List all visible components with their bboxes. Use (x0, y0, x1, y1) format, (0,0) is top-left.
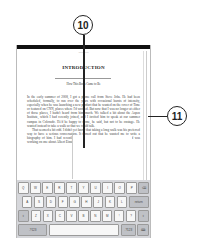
key-b[interactable]: B (78, 210, 88, 222)
numbers-key-right[interactable]: .?123 (121, 224, 136, 236)
key-s[interactable]: S (34, 196, 44, 208)
key-n[interactable]: N (90, 210, 100, 222)
key-h[interactable]: H (81, 196, 91, 208)
key-u[interactable]: U (90, 182, 101, 194)
callout-11: 11 (167, 106, 187, 126)
onscreen-keyboard: Q W E R T Y U I O P ⌫ A S D F G H J K L … (17, 180, 150, 238)
keyboard-icon: ⌨ (141, 228, 145, 232)
keyboard-row-2: A S D F G H J K L return (18, 196, 149, 208)
key-q[interactable]: Q (18, 182, 29, 194)
callout-10-leader-line (83, 35, 85, 148)
key-o[interactable]: O (114, 182, 125, 194)
shift-key-left[interactable]: ⇧ (18, 210, 29, 222)
key-e[interactable]: E (42, 182, 53, 194)
return-key[interactable]: return (129, 196, 149, 208)
numbers-key-left[interactable]: .?123 (18, 224, 47, 236)
key-l[interactable]: L (117, 196, 127, 208)
key-r[interactable]: R (54, 182, 65, 194)
key-y[interactable]: Y (78, 182, 89, 194)
key-i[interactable]: I (102, 182, 113, 194)
key-t[interactable]: T (66, 182, 77, 194)
keyboard-row-4: .?123 .?123 ⌨ (18, 224, 149, 236)
space-bar[interactable] (49, 224, 120, 236)
delete-icon: ⌫ (142, 186, 146, 190)
key-v[interactable]: V (66, 210, 76, 222)
callout-11-leader-line (148, 116, 167, 117)
key-z[interactable]: Z (31, 210, 41, 222)
callout-10: 10 (73, 15, 93, 35)
shift-icon: ⇧ (22, 214, 25, 218)
delete-key[interactable]: ⌫ (138, 182, 149, 194)
key-exclamation[interactable]: ! (114, 210, 124, 222)
key-f[interactable]: F (58, 196, 68, 208)
keyboard-row-3: ⇧ Z X C V B N M ! ? ⇧ (18, 210, 149, 222)
key-j[interactable]: J (93, 196, 103, 208)
keyboard-row-1: Q W E R T Y U I O P ⌫ (18, 182, 149, 194)
hide-keyboard-key[interactable]: ⌨ (137, 224, 149, 236)
shift-key-right[interactable]: ⇧ (138, 210, 149, 222)
shift-icon: ⇧ (142, 214, 145, 218)
key-d[interactable]: D (46, 196, 56, 208)
key-question[interactable]: ? (126, 210, 136, 222)
key-p[interactable]: P (126, 182, 137, 194)
key-m[interactable]: M (102, 210, 112, 222)
note-popover[interactable] (72, 135, 132, 179)
key-x[interactable]: X (43, 210, 53, 222)
key-g[interactable]: G (69, 196, 79, 208)
key-a[interactable]: A (22, 196, 32, 208)
key-k[interactable]: K (105, 196, 115, 208)
key-w[interactable]: W (30, 182, 41, 194)
key-c[interactable]: C (55, 210, 65, 222)
